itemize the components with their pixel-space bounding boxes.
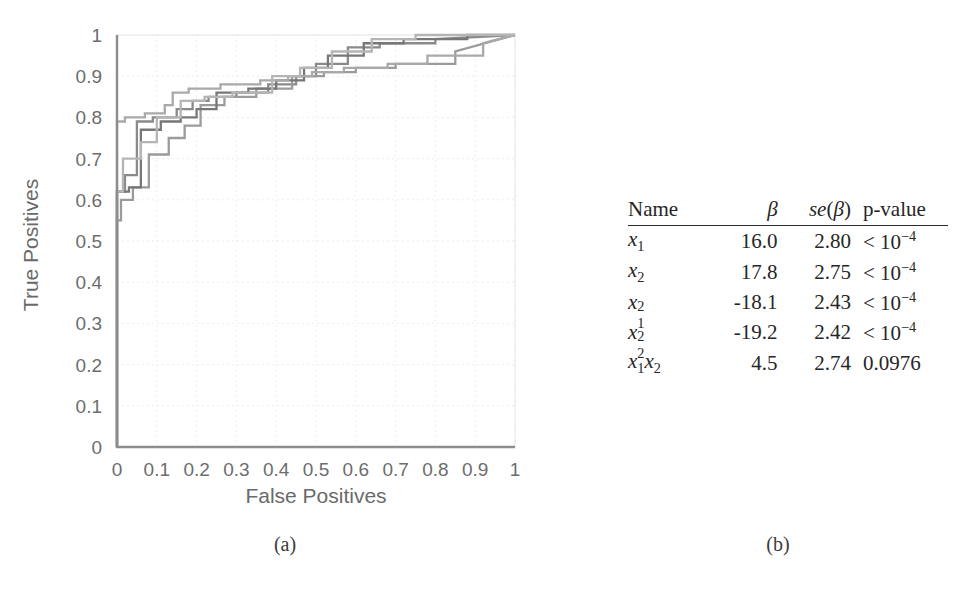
x-tick-label: 0.7 <box>382 459 408 480</box>
table-header: Name β se(β) p-value <box>628 196 948 226</box>
cell-beta: 4.5 <box>712 348 787 379</box>
x-tick-label: 1 <box>510 459 521 480</box>
x-axis-tick-labels: 00.10.20.30.40.50.60.70.80.91 <box>112 459 521 480</box>
cell-beta: 16.0 <box>712 226 787 258</box>
cell-pvalue: < 10−4 <box>863 288 948 318</box>
x-tick-label: 0 <box>112 459 123 480</box>
cell-se: 2.75 <box>788 257 863 288</box>
roc-figure-panel: 00.10.20.30.40.50.60.70.80.91 00.10.20.3… <box>0 0 560 560</box>
cell-se: 2.74 <box>788 348 863 379</box>
x-tick-label: 0.5 <box>303 459 329 480</box>
y-tick-label: 0.4 <box>76 272 103 293</box>
x-tick-label: 0.8 <box>422 459 448 480</box>
table-row: x116.02.80< 10−4 <box>628 226 948 258</box>
y-tick-label: 1 <box>91 25 102 46</box>
cell-name: x1 <box>628 226 712 258</box>
x-tick-label: 0.4 <box>263 459 290 480</box>
y-tick-label: 0.3 <box>76 313 102 334</box>
x-tick-label: 0.9 <box>462 459 488 480</box>
cell-pvalue: < 10−4 <box>863 257 948 288</box>
cell-se: 2.80 <box>788 226 863 258</box>
chart-gridlines <box>117 35 515 447</box>
y-tick-label: 0.7 <box>76 149 102 170</box>
table-header-row: Name β se(β) p-value <box>628 196 948 226</box>
x-tick-label: 0.6 <box>343 459 369 480</box>
y-axis-tick-labels: 00.10.20.30.40.50.60.70.80.91 <box>76 25 103 458</box>
coefficients-table: Name β se(β) p-value x116.02.80< 10−4x21… <box>628 196 948 380</box>
cell-se: 2.42 <box>788 318 863 348</box>
cell-beta: -18.1 <box>712 288 787 318</box>
table-row: x21-18.12.43< 10−4 <box>628 288 948 318</box>
cell-beta: 17.8 <box>712 257 787 288</box>
y-tick-label: 0 <box>91 437 102 458</box>
table-body: x116.02.80< 10−4x217.82.75< 10−4x21-18.1… <box>628 226 948 380</box>
x-tick-label: 0.1 <box>144 459 170 480</box>
cell-pvalue: < 10−4 <box>863 226 948 258</box>
x-axis-title: False Positives <box>245 484 386 507</box>
y-axis-title: True Positives <box>19 179 42 311</box>
header-pvalue: p-value <box>863 196 948 226</box>
header-se: se(β) <box>788 196 863 226</box>
cell-pvalue: < 10−4 <box>863 318 948 348</box>
header-beta: β <box>712 196 787 226</box>
y-tick-label: 0.6 <box>76 190 102 211</box>
table-row: x217.82.75< 10−4 <box>628 257 948 288</box>
y-tick-label: 0.2 <box>76 355 102 376</box>
y-tick-label: 0.1 <box>76 396 102 417</box>
statistics-table-panel: Name β se(β) p-value x116.02.80< 10−4x21… <box>628 196 948 380</box>
roc-chart: 00.10.20.30.40.50.60.70.80.91 00.10.20.3… <box>0 0 560 560</box>
cell-se: 2.43 <box>788 288 863 318</box>
y-tick-label: 0.5 <box>76 231 102 252</box>
cell-pvalue: 0.0976 <box>863 348 948 379</box>
table-row: x1x24.52.740.0976 <box>628 348 948 379</box>
x-tick-label: 0.2 <box>183 459 209 480</box>
x-tick-label: 0.3 <box>223 459 249 480</box>
cell-beta: -19.2 <box>712 318 787 348</box>
subfigure-caption-a: (a) <box>255 533 315 556</box>
subfigure-caption-b: (b) <box>748 533 808 556</box>
y-tick-label: 0.9 <box>76 66 102 87</box>
cell-name: x21 <box>628 288 712 318</box>
table-row: x22-19.22.42< 10−4 <box>628 318 948 348</box>
cell-name: x2 <box>628 257 712 288</box>
y-tick-label: 0.8 <box>76 107 102 128</box>
header-name: Name <box>628 196 712 226</box>
